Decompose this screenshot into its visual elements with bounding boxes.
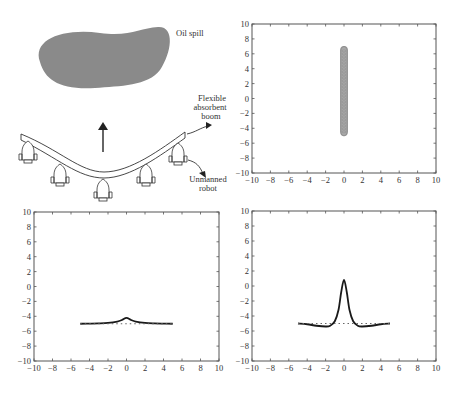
y-tick-label: −6 <box>22 326 31 336</box>
y-tick-label: −2 <box>22 296 31 306</box>
y-tick-label: −4 <box>240 311 250 321</box>
x-tick-label: 8 <box>415 363 419 373</box>
figure: Oil spill <box>0 0 460 394</box>
x-tick-label: 10 <box>432 175 441 185</box>
x-tick-label: 10 <box>432 363 441 373</box>
y-tick-label: −2 <box>240 108 249 118</box>
y-tick-label: 0 <box>245 94 249 104</box>
x-tick-label: −2 <box>103 363 112 373</box>
y-tick-label: 6 <box>245 49 249 59</box>
oil-spill-label: Oil spill <box>176 28 204 38</box>
boom-shape-curve <box>298 280 390 327</box>
plot-top-right: −10−8−6−4−20246810−10−8−6−4−20246810 <box>236 19 441 185</box>
x-tick-label: −6 <box>284 363 293 373</box>
y-tick-label: 8 <box>245 34 249 44</box>
y-tick-label: −6 <box>240 326 249 336</box>
y-tick-label: −8 <box>240 153 249 163</box>
x-tick-label: 6 <box>397 363 401 373</box>
robot-label-2: robot <box>199 183 218 193</box>
x-tick-label: −2 <box>321 363 330 373</box>
x-tick-label: −4 <box>303 175 313 185</box>
robot-icon <box>94 179 112 201</box>
y-tick-label: 4 <box>245 64 250 74</box>
axes-frame <box>252 211 436 361</box>
y-tick-label: 6 <box>245 236 249 246</box>
boom-label-3: boom <box>201 111 221 121</box>
y-tick-label: −10 <box>18 356 31 366</box>
y-tick-label: 2 <box>245 79 249 89</box>
plot-bottom-left: −10−8−6−4−20246810−10−8−6−4−20246810 <box>18 207 224 373</box>
y-tick-label: −10 <box>236 356 249 366</box>
x-tick-label: 2 <box>360 175 364 185</box>
x-tick-label: 8 <box>198 363 202 373</box>
y-tick-label: 4 <box>27 252 32 262</box>
y-tick-label: 2 <box>245 266 249 276</box>
y-tick-label: −8 <box>240 341 249 351</box>
x-tick-label: 0 <box>342 175 346 185</box>
plot-bottom-right: −10−8−6−4−20246810−10−8−6−4−20246810 <box>236 206 441 373</box>
robot-icon <box>51 164 69 186</box>
y-tick-label: −8 <box>22 341 31 351</box>
axes-frame <box>34 212 219 361</box>
boom-shape-curve <box>80 318 173 324</box>
x-tick-label: 4 <box>161 363 166 373</box>
x-tick-label: 2 <box>360 363 364 373</box>
x-tick-label: −6 <box>284 175 293 185</box>
x-tick-label: −8 <box>48 363 57 373</box>
y-tick-label: 2 <box>27 267 31 277</box>
x-tick-label: −8 <box>266 363 275 373</box>
x-tick-label: 0 <box>124 363 128 373</box>
x-tick-label: 4 <box>379 363 384 373</box>
x-tick-label: −4 <box>85 363 95 373</box>
y-tick-label: 4 <box>245 251 250 261</box>
y-tick-label: −4 <box>22 311 32 321</box>
y-tick-label: −10 <box>236 168 249 178</box>
y-tick-label: 10 <box>241 19 250 29</box>
y-tick-label: −6 <box>240 138 249 148</box>
y-tick-label: −2 <box>240 296 249 306</box>
x-tick-label: 4 <box>379 175 384 185</box>
x-tick-label: 0 <box>342 363 346 373</box>
y-tick-label: 8 <box>245 221 249 231</box>
boom-pointer-arrow <box>187 126 208 134</box>
y-tick-label: 10 <box>241 206 250 216</box>
x-tick-label: 6 <box>180 363 184 373</box>
x-tick-label: −4 <box>303 363 313 373</box>
y-tick-label: 6 <box>27 237 31 247</box>
x-tick-label: 6 <box>397 175 401 185</box>
oil-spill-shape <box>39 27 170 88</box>
x-tick-label: −6 <box>66 363 75 373</box>
boom-pointer-head <box>206 122 212 129</box>
y-tick-label: −4 <box>240 123 250 133</box>
x-tick-label: −2 <box>321 175 330 185</box>
y-tick-label: 0 <box>27 282 31 292</box>
y-tick-label: 8 <box>27 222 31 232</box>
illustration-panel: Oil spill <box>19 27 227 201</box>
x-tick-label: 10 <box>215 363 224 373</box>
arrow-up-icon <box>98 122 108 152</box>
x-tick-label: 8 <box>415 175 419 185</box>
y-tick-label: 0 <box>245 281 249 291</box>
robot-pointer-arrow <box>188 160 203 174</box>
x-tick-label: 2 <box>143 363 147 373</box>
y-tick-label: 10 <box>23 207 32 217</box>
x-tick-label: −8 <box>266 175 275 185</box>
